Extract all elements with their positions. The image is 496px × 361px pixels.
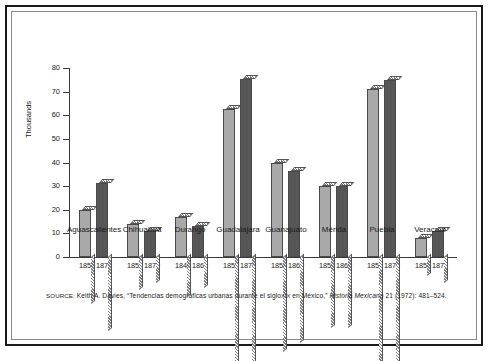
figure-container: Thousands 01020304050607080 185718781859… [0,0,496,361]
source-century-smallcaps: XIX [281,293,290,299]
y-axis-tick-label: 0 [56,251,60,262]
x-axis-category-label: Chihuahua [115,225,169,234]
source-caption: SOURCE: Keith A. Davies, “Tendencias dem… [46,292,447,299]
x-axis-category-label: Guadalajara [211,225,265,234]
source-mid-text: en México,” [292,292,327,299]
bar-front-face [271,163,283,258]
bar-top-face [243,75,258,79]
y-axis-tick-label: 50 [52,133,60,144]
x-axis-category-label: Aguascalientes [67,225,121,234]
bar-top-face [99,179,114,183]
y-axis-tick-label: 30 [52,180,60,191]
x-axis-category-label: Mérida [307,225,361,234]
bar-front-face [223,109,235,257]
x-axis-category-label: Durango [163,225,217,234]
x-axis-category-label: Veracruz [403,225,457,234]
source-journal-title: Historia Mexicana [329,292,383,299]
x-axis-year-label: 1874 [235,261,261,270]
y-axis-tick: 0 [63,257,69,258]
bar-front-face [336,186,348,257]
bar-front-face [288,171,300,257]
bar-front-face [319,186,331,257]
bar-top-face [387,76,402,80]
bar-front-face [432,231,444,257]
bar-side-face [396,254,400,361]
bar-front-face [144,231,156,257]
x-axis-category-label: Puebla [355,225,409,234]
bar-top-face [339,182,354,186]
bar-front-face [96,183,108,257]
bar-top-face [291,167,306,171]
bar-side-face [204,254,208,288]
bar-side-face [252,254,256,361]
x-axis-category-label: Guanajuato [259,225,313,234]
y-axis-tick-label: 40 [52,157,60,168]
source-citation-tail: 21 (1972): 481–524. [385,292,446,299]
source-label: SOURCE: [46,292,75,299]
y-axis-tick-label: 10 [52,227,60,238]
bar-front-face [415,238,427,257]
x-axis-year-label: 1878 [91,261,117,270]
bar-top-face [130,220,145,224]
bar-side-face [139,254,143,290]
x-axis-year-label: 1869 [331,261,357,270]
bar-top-face [178,213,193,217]
chart-plot-area: Thousands 01020304050607080 185718781859… [30,20,462,270]
y-axis-tick-label: 70 [52,86,60,97]
y-axis-tick-label: 60 [52,109,60,120]
x-axis-year-label: 1860 [283,261,309,270]
source-author-text: Keith A. Davies, “Tendencias demográfica… [77,292,281,299]
bar-front-face [175,217,187,257]
bar-top-face [274,159,289,163]
x-axis-year-label: 1878 [427,261,453,270]
bar-side-face [444,254,448,283]
y-axis-tick-label: 20 [52,204,60,215]
bar-side-face [156,254,160,283]
x-axis-year-label: 1870 [139,261,165,270]
y-axis-title: Thousands [24,101,33,138]
y-axis-tick-label: 80 [52,62,60,73]
x-axis-year-label: 1878 [379,261,405,270]
x-axis-year-label: 1869 [187,261,213,270]
bar-side-face [348,254,352,328]
